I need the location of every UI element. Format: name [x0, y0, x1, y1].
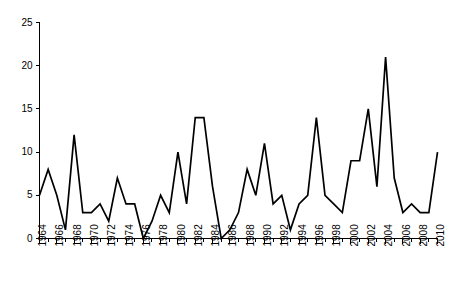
y-tick-label: 10: [21, 146, 33, 157]
x-tick-label: 2006: [401, 224, 412, 247]
y-axis: [36, 23, 40, 239]
x-tick-label: 1982: [193, 224, 204, 247]
x-tick-label: 1980: [176, 224, 187, 247]
x-tick-label: 1968: [72, 224, 83, 247]
x-tick-label: 1990: [262, 224, 273, 247]
data-line-path: [40, 57, 438, 238]
x-tick-label: 1996: [314, 224, 325, 247]
x-tick-label: 1988: [245, 224, 256, 247]
x-tick-label: 1966: [54, 224, 65, 247]
x-tick-label: 2000: [349, 224, 360, 247]
x-tick-label: 1964: [37, 224, 48, 247]
x-axis-tick-labels: 1964196619681970197219741976197819801982…: [37, 224, 446, 247]
x-tick-label: 1970: [89, 224, 100, 247]
x-tick-label: 2002: [366, 224, 377, 247]
x-tick-label: 1978: [158, 224, 169, 247]
chart-plot-area: 0510152025 19641966196819701972197419761…: [0, 0, 453, 281]
x-tick-label: 2010: [435, 224, 446, 247]
y-tick-label: 5: [27, 189, 33, 200]
x-tick-label: 1986: [227, 224, 238, 247]
x-tick-label: 1994: [297, 224, 308, 247]
data-series-line: [40, 57, 438, 238]
y-axis-tick-labels: 0510152025: [21, 17, 33, 244]
x-tick-label: 1998: [331, 224, 342, 247]
x-tick-label: 1992: [279, 224, 290, 247]
y-tick-label: 0: [27, 233, 33, 244]
y-tick-label: 15: [21, 103, 33, 114]
y-tick-label: 25: [21, 17, 33, 28]
x-tick-label: 2008: [418, 224, 429, 247]
y-tick-label: 20: [21, 60, 33, 71]
x-tick-label: 2004: [383, 224, 394, 247]
x-tick-label: 1972: [106, 224, 117, 247]
line-chart: 0510152025 19641966196819701972197419761…: [0, 0, 453, 281]
x-tick-label: 1974: [124, 224, 135, 247]
